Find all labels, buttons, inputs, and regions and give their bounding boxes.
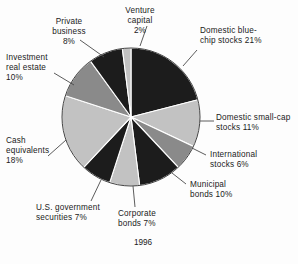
slice-label-private-business: Private business 8% [40, 17, 98, 48]
slice-label-domestic-blue-chip-stocks: Domestic blue- chip stocks 21% [200, 26, 292, 46]
leader-line-us-government [91, 180, 101, 201]
slice-label-investment-real-estate: Investment real estate 10% [6, 53, 70, 84]
leader-line-international-stocks [192, 148, 206, 155]
leader-line-municipal-bonds [172, 173, 186, 184]
leader-line-domestic-blue-chip [183, 50, 197, 66]
pie-chart-figure: Venture capital 2% Private business 8% I… [0, 0, 298, 264]
slice-label-municipal-bonds: Municipal bonds 10% [190, 180, 262, 200]
slice-label-cash-equivalents: Cash equivalents 18% [6, 136, 66, 167]
leader-line-corporate-bonds [133, 186, 135, 207]
slice-label-international-stocks: International stocks 6% [210, 150, 284, 170]
chart-year-caption: 1996 [118, 238, 168, 248]
pie-slice-group [62, 48, 200, 186]
slice-label-us-government-securities: U.S. government securities 7% [36, 203, 124, 223]
slice-label-corporate-bonds: Corporate bonds 7% [118, 209, 180, 229]
slice-label-venture-capital: Venture capital 2% [112, 6, 168, 37]
slice-label-domestic-small-cap-stocks: Domestic small-cap stocks 11% [216, 113, 296, 133]
